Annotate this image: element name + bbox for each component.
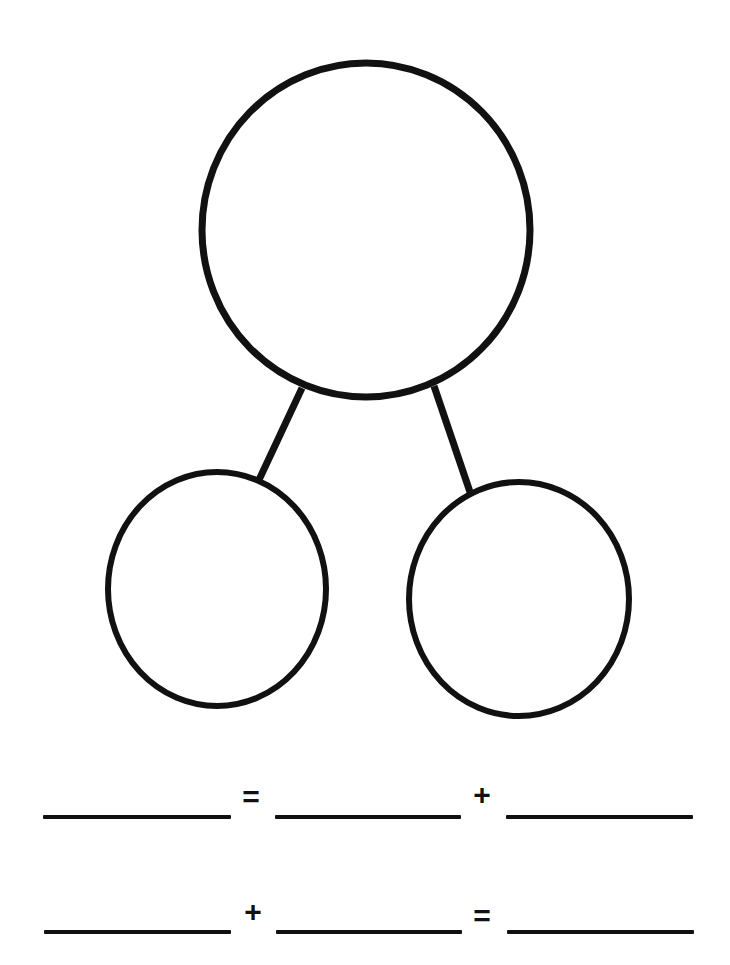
part-circle-left[interactable] — [108, 472, 326, 706]
equation-1-blank-2[interactable] — [275, 815, 461, 819]
part-circle-right[interactable] — [409, 482, 629, 716]
number-bond-diagram — [0, 0, 730, 965]
plus-sign: + — [238, 897, 268, 927]
equals-sign: = — [236, 782, 266, 812]
equals-sign: = — [467, 901, 497, 931]
plus-sign: + — [467, 780, 497, 810]
whole-circle[interactable] — [202, 63, 530, 397]
equation-2-blank-2[interactable] — [276, 930, 462, 934]
equation-2-blank-1[interactable] — [44, 930, 231, 934]
equation-1-blank-3[interactable] — [506, 815, 693, 819]
equation-2-blank-3[interactable] — [507, 930, 694, 934]
connector-line-left — [258, 388, 302, 482]
connector-line-right — [434, 386, 470, 492]
equation-1-blank-1[interactable] — [43, 815, 231, 819]
